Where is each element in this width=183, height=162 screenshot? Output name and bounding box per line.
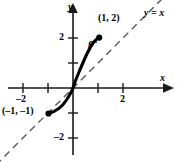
identity-line [0,0,170,162]
inverse-curve-label: f–1 [88,38,98,49]
y-tick-label-neg2: –2 [54,132,64,142]
lower-point-label: (–1, –1) [2,106,34,116]
x-tick-label-pos2: 2 [120,94,125,104]
upper-point-label: (1, 2) [98,13,120,23]
plot-canvas [0,0,183,162]
inverse-function-graph-figure: y x –2 2 2 –2 (1, 2) (–1, –1) f–1 y = x [0,0,183,162]
x-tick-label-neg2: –2 [16,94,26,104]
y-tick-label-pos2: 2 [59,32,64,42]
identity-line-label: y = x [144,8,164,18]
x-axis-label: x [160,73,165,83]
y-axis-label: y [68,2,72,12]
inverse-curve-label-exponent: –1 [91,37,98,44]
lower-endpoint-dot [45,110,51,116]
x-axis-arrow [163,83,174,93]
